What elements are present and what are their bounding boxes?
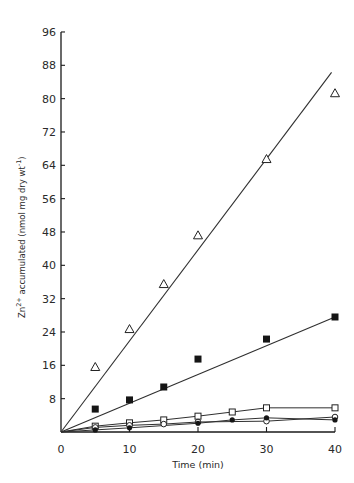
filled-square-marker (195, 356, 202, 363)
open-square-marker (264, 405, 270, 411)
y-tick-label: 64 (42, 159, 56, 172)
origin-label: 0 (58, 443, 65, 456)
filled-square-marker (92, 406, 99, 413)
filled-circle-marker (332, 417, 337, 422)
open-square-marker (229, 409, 235, 415)
fit-line (61, 72, 332, 432)
triangle-marker (91, 362, 100, 370)
x-axis-label: Time (min) (171, 459, 224, 470)
filled-circle-marker (93, 427, 98, 432)
y-tick-label: 56 (42, 193, 56, 206)
y-tick-label: 8 (49, 393, 56, 406)
filled-square-marker (263, 336, 270, 343)
y-tick-label: 24 (42, 326, 56, 339)
filled-circle-marker (264, 415, 269, 420)
filled-circle-marker (195, 421, 200, 426)
filled-square-marker (126, 396, 133, 403)
triangle-marker (125, 325, 134, 333)
x-tick-label: 10 (123, 443, 137, 456)
y-tick-label: 72 (42, 126, 56, 139)
data-markers (91, 89, 340, 433)
triangle-marker (194, 231, 203, 239)
filled-square-marker (332, 313, 339, 320)
y-tick-label: 96 (42, 26, 56, 39)
triangle-marker (331, 89, 340, 97)
x-tick-label: 20 (191, 443, 205, 456)
fit-lines (61, 72, 335, 432)
x-tick-label: 30 (260, 443, 274, 456)
filled-circle-marker (230, 417, 235, 422)
y-tick-label: 88 (42, 59, 56, 72)
y-tick-label: 48 (42, 226, 56, 239)
triangle-marker (159, 280, 168, 288)
open-square-marker (195, 413, 201, 419)
y-tick-label: 40 (42, 259, 56, 272)
chart: 8162432404856647280889610203040 0 Time (… (0, 0, 354, 483)
filled-square-marker (160, 383, 167, 390)
y-tick-label: 80 (42, 93, 56, 106)
open-square-marker (332, 405, 338, 411)
y-tick-label: 32 (42, 293, 56, 306)
filled-circle-marker (127, 425, 132, 430)
y-axis-label: Zn2+ accumulated (nmol mg dry wt-1) (15, 156, 27, 318)
x-tick-label: 40 (328, 443, 342, 456)
open-circle-marker (161, 421, 167, 427)
triangle-marker (262, 155, 271, 163)
axes: 8162432404856647280889610203040 (42, 26, 342, 456)
y-tick-label: 16 (42, 359, 56, 372)
